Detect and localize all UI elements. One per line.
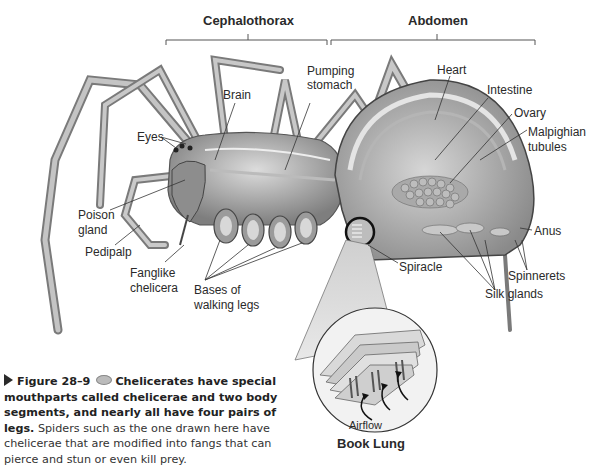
book-lung-title: Book Lung <box>337 436 405 451</box>
poison-gland-label-line2: gland <box>78 223 107 237</box>
bases-of-walking-legs-label-line2: walking legs <box>194 298 259 312</box>
figure-canvas: Cephalothorax Abdomen Eyes Brain Pumping… <box>0 0 610 472</box>
anus-label: Anus <box>534 224 561 238</box>
fanglike-chelicera-label-line2: chelicera <box>130 281 178 295</box>
pedipalp-label: Pedipalp <box>85 245 132 259</box>
abdomen-bracket <box>331 34 535 45</box>
bases-of-walking-legs-label-line1: Bases of <box>194 283 241 297</box>
ovary-label: Ovary <box>514 106 546 120</box>
eyes-label: Eyes <box>137 130 164 144</box>
malpighian-tubules-label-line2: tubules <box>528 140 567 154</box>
malpighian-tubules-label-line1: Malpighian <box>528 125 586 139</box>
brain-label: Brain <box>223 88 251 102</box>
figure-number: Figure 28–9 <box>17 375 90 388</box>
pumping-stomach-label-line1: Pumping <box>307 64 354 78</box>
cephalothorax-bracket <box>166 34 327 45</box>
caption-body-text: Spiders such as the one drawn here have … <box>4 422 271 466</box>
triangle-bullet-icon <box>4 374 13 386</box>
poison-gland-label-line1: Poison <box>78 208 115 222</box>
fanglike-chelicera-label-line1: Fanglike <box>130 266 175 280</box>
heart-label: Heart <box>437 63 466 77</box>
figure-caption: Figure 28–9Chelicerates have special mou… <box>4 374 300 467</box>
spinnerets-label: Spinnerets <box>508 269 565 283</box>
spiracle-label: Spiracle <box>399 260 442 274</box>
abdomen-label: Abdomen <box>408 13 468 28</box>
ovary <box>392 176 468 208</box>
silk-glands-label: Silk glands <box>485 287 543 301</box>
eye-icon <box>96 375 112 385</box>
intestine-label: Intestine <box>487 83 532 97</box>
pumping-stomach-label-line2: stomach <box>307 78 352 92</box>
cephalothorax-label: Cephalothorax <box>203 13 294 28</box>
airflow-label: Airflow <box>349 418 382 432</box>
